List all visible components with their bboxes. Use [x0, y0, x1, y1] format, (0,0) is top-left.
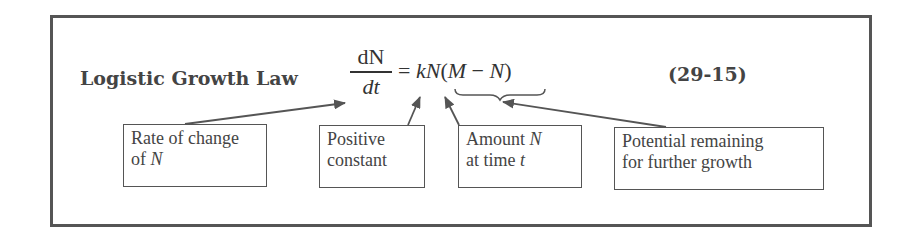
arrow-potential	[503, 102, 666, 127]
annotation-arrows	[0, 0, 920, 242]
arrow-amount	[445, 97, 459, 125]
arrow-constant	[408, 97, 420, 125]
arrow-rate	[185, 103, 345, 124]
underbrace	[455, 89, 545, 100]
